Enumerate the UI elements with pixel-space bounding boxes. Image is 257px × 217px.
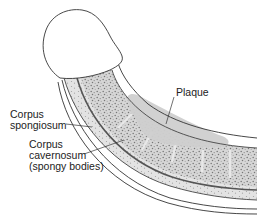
- corpus-spongiosum-label-line2: spongiosum: [10, 119, 67, 131]
- glans: [43, 10, 122, 79]
- corpus-cavernosum-label-line3: (spongy bodies): [29, 160, 104, 172]
- penis-anatomy-diagram: Plaque Corpus spongiosum Corpus cavernos…: [0, 0, 257, 217]
- plaque-label: Plaque: [176, 86, 209, 98]
